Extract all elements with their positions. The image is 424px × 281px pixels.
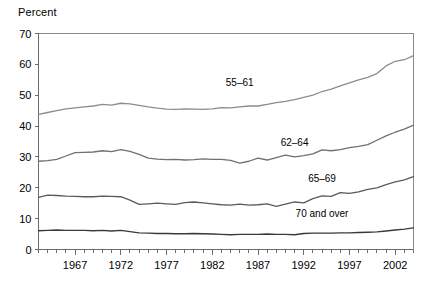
chart-container: Percent 010203040506070 1967197219771982… bbox=[0, 0, 424, 281]
series-label-3: 70 and over bbox=[296, 208, 349, 219]
series-label-2: 65–69 bbox=[308, 173, 336, 184]
x-tick-label: 1997 bbox=[337, 259, 361, 271]
y-tick-label: 20 bbox=[19, 182, 31, 194]
y-tick-label: 0 bbox=[25, 244, 31, 256]
x-tick-label: 2002 bbox=[383, 259, 407, 271]
y-tick-label: 40 bbox=[19, 120, 31, 132]
series-label-0: 55–61 bbox=[226, 77, 254, 88]
x-axis-ticks: 19671972197719821987199219972002 bbox=[39, 250, 414, 271]
chart-axes bbox=[39, 34, 414, 250]
series-line-3 bbox=[39, 228, 414, 235]
y-tick-label: 60 bbox=[19, 58, 31, 70]
y-tick-label: 10 bbox=[19, 213, 31, 225]
series-line-2 bbox=[39, 177, 414, 207]
y-axis-ticks: 010203040506070 bbox=[19, 28, 38, 256]
y-tick-label: 70 bbox=[19, 28, 31, 40]
y-tick-label: 30 bbox=[19, 151, 31, 163]
x-tick-label: 1972 bbox=[109, 259, 133, 271]
series-label-1: 62–64 bbox=[281, 137, 309, 148]
x-tick-label: 1982 bbox=[200, 259, 224, 271]
x-tick-label: 1967 bbox=[63, 259, 87, 271]
x-tick-label: 1992 bbox=[292, 259, 316, 271]
line-chart-svg: 010203040506070 196719721977198219871992… bbox=[0, 0, 424, 281]
x-tick-label: 1987 bbox=[246, 259, 270, 271]
series-line-1 bbox=[39, 125, 414, 163]
x-tick-label: 1977 bbox=[154, 259, 178, 271]
chart-series-labels: 55–6162–6465–6970 and over bbox=[226, 77, 349, 219]
y-tick-label: 50 bbox=[19, 89, 31, 101]
